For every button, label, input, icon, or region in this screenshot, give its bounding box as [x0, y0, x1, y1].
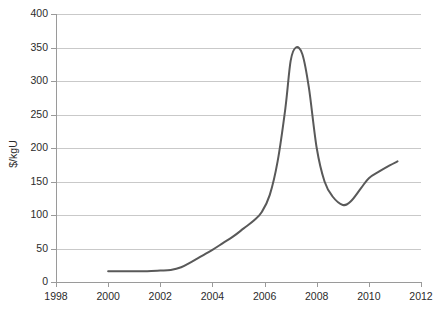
x-tick-label: 2008 — [294, 290, 340, 302]
x-axis-ticks: 19982000200220042006200820102012 — [0, 0, 444, 311]
x-tick-label: 2004 — [189, 290, 235, 302]
x-tick-mark — [108, 282, 109, 287]
x-tick-mark — [265, 282, 266, 287]
x-tick-label: 2006 — [242, 290, 288, 302]
x-tick-mark — [317, 282, 318, 287]
x-tick-label: 2000 — [85, 290, 131, 302]
x-tick-mark — [212, 282, 213, 287]
chart-container: 050100150200250300350400 199820002002200… — [0, 0, 444, 311]
x-tick-mark — [160, 282, 161, 287]
y-axis-title: $/kgU — [7, 119, 19, 189]
x-tick-label: 2002 — [137, 290, 183, 302]
x-tick-label: 2010 — [346, 290, 392, 302]
x-tick-label: 1998 — [33, 290, 79, 302]
x-tick-label: 2012 — [398, 290, 444, 302]
x-tick-mark — [421, 282, 422, 287]
x-tick-mark — [56, 282, 57, 287]
x-tick-mark — [369, 282, 370, 287]
